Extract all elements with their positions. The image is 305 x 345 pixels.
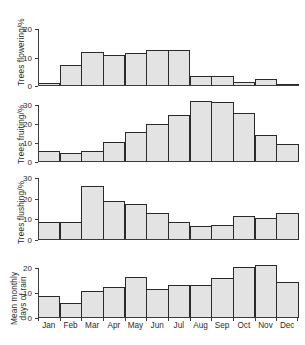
x-axis-label-dec: Dec bbox=[276, 321, 298, 330]
x-axis-label-nov: Nov bbox=[255, 321, 277, 330]
y-axis-label-line1: Mean monthly bbox=[10, 272, 19, 325]
y-tick-label: 0 bbox=[0, 158, 32, 167]
bar bbox=[211, 278, 233, 318]
chart-panel-trees-flowering: Trees flowering/% 01020 bbox=[0, 6, 305, 86]
figure-phenology-rainfall: Trees flowering/% 01020 Trees fruiting/%… bbox=[0, 0, 305, 345]
bar bbox=[255, 218, 277, 240]
bar bbox=[211, 102, 233, 162]
bar bbox=[38, 296, 60, 319]
x-axis-label-aug: Aug bbox=[190, 321, 212, 330]
y-axis-label-trees-fruiting: Trees fruiting/% bbox=[17, 105, 26, 164]
y-tick-label: 10 bbox=[0, 138, 32, 147]
bar-series-1 bbox=[38, 97, 298, 162]
y-tick-mark bbox=[35, 219, 38, 220]
bar bbox=[103, 55, 125, 86]
x-axis-month-labels: JanFebMarAprMayJunJulAugSepOctNovDec bbox=[38, 321, 298, 335]
chart-panel-trees-flushing: Trees flushing/% 0102030 bbox=[0, 168, 305, 246]
bar bbox=[103, 201, 125, 240]
y-tick-mark bbox=[35, 162, 38, 163]
y-tick-mark bbox=[35, 293, 38, 294]
bar bbox=[81, 186, 103, 240]
bar bbox=[276, 144, 298, 162]
y-tick-mark bbox=[35, 58, 38, 59]
y-axis-label-days-of-rain: Mean monthly days of rain bbox=[10, 272, 29, 325]
y-tick-label: 20 bbox=[0, 25, 32, 34]
x-axis-label-oct: Oct bbox=[233, 321, 255, 330]
x-axis-label-may: May bbox=[125, 321, 147, 330]
bar bbox=[60, 222, 82, 240]
bar bbox=[103, 142, 125, 162]
y-tick-mark bbox=[35, 124, 38, 125]
plot-area-2 bbox=[38, 176, 298, 240]
y-tick-label: 20 bbox=[0, 194, 32, 203]
y-tick-label: 30 bbox=[0, 174, 32, 183]
y-axis-line bbox=[38, 268, 39, 318]
chart-panel-trees-fruiting: Trees fruiting/% 0102030 bbox=[0, 88, 305, 166]
bar bbox=[146, 124, 168, 162]
bar bbox=[276, 282, 298, 318]
bar bbox=[190, 285, 212, 319]
y-tick-label: 30 bbox=[0, 100, 32, 109]
bar bbox=[60, 303, 82, 318]
y-tick-mark bbox=[35, 143, 38, 144]
bar bbox=[168, 222, 190, 240]
y-tick-mark bbox=[35, 199, 38, 200]
y-tick-label: 0 bbox=[0, 314, 32, 323]
bar bbox=[211, 225, 233, 240]
y-axis-label-trees-flushing: Trees flushing/% bbox=[17, 181, 26, 244]
y-axis-line bbox=[38, 178, 39, 240]
y-tick-mark bbox=[35, 105, 38, 106]
bar bbox=[103, 287, 125, 318]
x-axis-label-sep: Sep bbox=[211, 321, 233, 330]
y-tick-mark bbox=[35, 178, 38, 179]
x-axis-label-feb: Feb bbox=[60, 321, 82, 330]
bar bbox=[125, 204, 147, 240]
bar bbox=[125, 132, 147, 162]
x-axis-label-jul: Jul bbox=[168, 321, 190, 330]
y-tick-label: 10 bbox=[0, 215, 32, 224]
y-axis-label-line2: days of rain bbox=[19, 276, 28, 320]
bar-series-0 bbox=[38, 18, 298, 86]
bar-series-3 bbox=[38, 258, 298, 318]
bar bbox=[233, 216, 255, 240]
plot-area-0 bbox=[38, 18, 298, 86]
y-tick-label: 0 bbox=[0, 236, 32, 245]
y-tick-label: 20 bbox=[0, 119, 32, 128]
y-axis-line bbox=[38, 105, 39, 162]
bar bbox=[255, 135, 277, 162]
plot-area-3 bbox=[38, 258, 298, 318]
bar bbox=[168, 50, 190, 86]
bar bbox=[190, 226, 212, 240]
bar bbox=[146, 289, 168, 318]
plot-area-1 bbox=[38, 97, 298, 162]
bar bbox=[38, 222, 60, 240]
y-tick-label: 20 bbox=[0, 264, 32, 273]
bar bbox=[276, 213, 298, 240]
y-tick-mark bbox=[35, 240, 38, 241]
y-tick-mark bbox=[35, 268, 38, 269]
y-tick-mark bbox=[35, 29, 38, 30]
x-axis-label-mar: Mar bbox=[81, 321, 103, 330]
y-tick-label: 10 bbox=[0, 53, 32, 62]
x-axis-label-jan: Jan bbox=[38, 321, 60, 330]
x-axis-line bbox=[38, 85, 298, 86]
bar bbox=[255, 265, 277, 319]
bar bbox=[190, 101, 212, 162]
bar-series-2 bbox=[38, 176, 298, 240]
bar bbox=[233, 113, 255, 162]
x-axis-line bbox=[38, 161, 298, 162]
y-tick-label: 10 bbox=[0, 289, 32, 298]
bar bbox=[233, 267, 255, 318]
y-axis-label-trees-flowering: Trees flowering/% bbox=[17, 18, 26, 86]
bar bbox=[146, 50, 168, 86]
bar bbox=[125, 277, 147, 318]
bar bbox=[168, 285, 190, 319]
y-axis-line bbox=[38, 29, 39, 86]
chart-panel-days-of-rain: Mean monthly days of rain 01020 JanFebMa… bbox=[0, 253, 305, 343]
bar bbox=[146, 213, 168, 240]
bar bbox=[60, 65, 82, 86]
bar bbox=[125, 53, 147, 86]
bar bbox=[81, 52, 103, 86]
bar bbox=[81, 291, 103, 318]
x-axis-line bbox=[38, 239, 298, 240]
